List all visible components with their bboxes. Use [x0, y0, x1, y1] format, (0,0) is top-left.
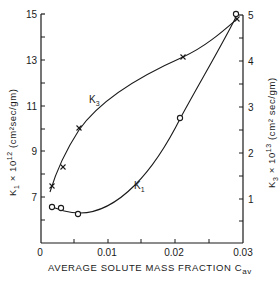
right-tick-4: 4 [248, 56, 254, 67]
left-tick-9: 9 [31, 146, 37, 157]
right-y-axis-title: K3 × 1013 (cm² sec/gm) [265, 77, 279, 188]
x-tick-002: 0.02 [164, 247, 184, 258]
x-tick-labels: 0 0.01 0.02 0.03 [37, 247, 253, 258]
k3-point [61, 165, 66, 170]
x-axis-title: AVERAGE SOLUTE MASS FRACTION Cav [48, 262, 252, 276]
k1-point [177, 115, 182, 120]
right-tick-5: 5 [248, 10, 254, 21]
right-tick-labels: 5 4 3 2 1 [248, 10, 254, 205]
k1-point [58, 205, 63, 210]
left-tick-7: 7 [31, 192, 37, 203]
left-tick-11: 11 [27, 101, 38, 112]
right-tick-1: 1 [248, 194, 254, 205]
k1-curve-label: K1 [134, 180, 145, 193]
k1-point [233, 11, 238, 16]
chart: 15 13 11 9 7 5 4 3 2 1 0 0.01 0.02 0.03 … [0, 0, 279, 283]
k1-curve [50, 17, 236, 213]
left-tick-labels: 15 13 11 9 7 [26, 9, 38, 203]
x-tick-001: 0.01 [97, 247, 117, 258]
k3-curve [50, 19, 237, 192]
x-tick-0: 0 [37, 247, 43, 258]
k3-point [181, 55, 186, 60]
left-y-axis-title: K1 × 1012 (cm²sec/gm) [6, 89, 20, 196]
k1-point [75, 211, 80, 216]
k3-markers [50, 17, 240, 189]
right-tick-2: 2 [248, 148, 254, 159]
x-tick-003: 0.03 [233, 247, 253, 258]
k3-curve-label: K3 [89, 94, 100, 107]
k1-point [49, 204, 54, 209]
left-tick-15: 15 [26, 9, 38, 20]
left-tick-13: 13 [26, 55, 38, 66]
axes [41, 14, 243, 243]
right-tick-3: 3 [248, 102, 254, 113]
